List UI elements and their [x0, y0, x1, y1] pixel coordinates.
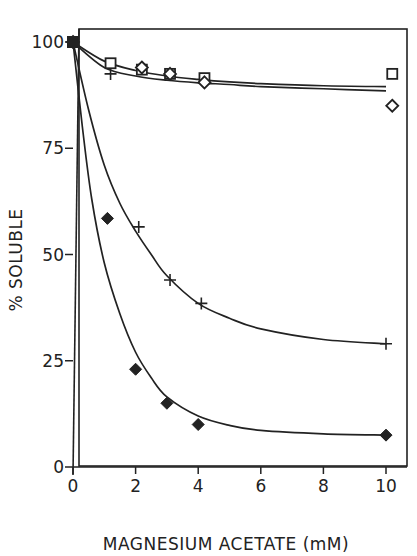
fit-curves	[73, 42, 386, 435]
chart: 02468100255075100 MAGNESIUM ACETATE (mM)…	[0, 0, 417, 556]
x-axis-title: MAGNESIUM ACETATE (mM)	[103, 534, 349, 554]
x-tick-label: 6	[255, 476, 266, 496]
marker-filled-diamond	[380, 429, 392, 441]
marker-filled-diamond	[130, 363, 142, 375]
y-tick-label: 25	[42, 351, 64, 371]
x-tick-label: 10	[375, 476, 397, 496]
y-axis-title: % SOLUBLE	[6, 208, 26, 311]
marker-filled-diamond	[192, 419, 204, 431]
axes: 02468100255075100	[32, 29, 407, 496]
marker-filled-diamond	[101, 212, 113, 224]
fit-curve-plus	[73, 42, 386, 344]
y-tick-label: 75	[42, 138, 64, 158]
data-markers	[67, 36, 398, 441]
x-tick-label: 2	[130, 476, 141, 496]
marker-plus	[105, 68, 117, 80]
marker-open-square	[387, 69, 397, 79]
marker-plus	[133, 221, 145, 233]
plot-frame	[79, 29, 407, 466]
x-tick-label: 0	[68, 476, 79, 496]
fit-curve-filled-diamond	[73, 42, 386, 435]
marker-open-square	[106, 58, 116, 68]
marker-filled-diamond	[161, 397, 173, 409]
marker-open-diamond	[386, 100, 398, 112]
y-tick-label: 100	[32, 32, 64, 52]
marker-plus	[380, 338, 392, 350]
origin-marker-cluster	[67, 36, 79, 48]
y-tick-label: 50	[42, 245, 64, 265]
x-tick-label: 4	[193, 476, 204, 496]
x-tick-label: 8	[318, 476, 329, 496]
y-tick-label: 0	[53, 457, 64, 477]
fit-curve-open-square	[73, 42, 386, 87]
